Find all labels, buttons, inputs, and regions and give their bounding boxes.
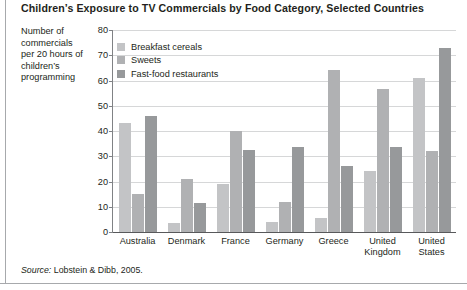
bar-group [413,30,451,232]
source-note: Source: Lobstein & Dibb, 2005. [21,265,143,275]
y-tick-label: 70 [98,50,108,60]
bar-group [217,30,255,232]
bar [132,194,144,232]
source-text: Lobstein & Dibb, 2005. [54,265,143,275]
bar [145,116,157,232]
y-tick-label: 50 [98,101,108,111]
y-tick-label: 30 [98,151,108,161]
chart-legend: Breakfast cerealsSweetsFast-food restaur… [117,40,218,81]
y-tick-mark [109,131,113,132]
y-axis-caption: Number of commercials per 20 hours of ch… [21,26,87,84]
bar [341,166,353,232]
x-axis-label: UnitedStates [400,236,464,258]
bar [194,203,206,232]
frame-left-rule [5,0,6,283]
y-tick-mark [109,232,113,233]
bar [364,171,376,232]
y-tick-mark [109,81,113,82]
y-tick-mark [109,156,113,157]
bar [243,150,255,232]
y-tick-label: 10 [98,202,108,212]
legend-label: Sweets [131,55,161,65]
bar-group [364,30,402,232]
bar [168,223,180,232]
bar [426,151,438,232]
y-tick-label: 80 [98,25,108,35]
legend-swatch [117,70,125,78]
bar [119,123,131,232]
bar [390,147,402,232]
y-tick-label: 20 [98,177,108,187]
bar [377,89,389,232]
y-tick-mark [109,106,113,107]
y-tick-mark [109,182,113,183]
bar [279,202,291,232]
legend-item: Sweets [117,54,218,68]
source-label: Source: [21,265,51,275]
y-tick-label: 40 [98,126,108,136]
legend-label: Breakfast cereals [131,42,202,52]
bar [230,131,242,232]
legend-swatch [117,43,125,51]
bar [439,48,451,232]
y-tick-label: 60 [98,76,108,86]
chart-title: Children’s Exposure to TV Commercials by… [21,2,451,15]
bar-group [315,30,353,232]
bar [266,222,278,232]
bar [328,70,340,232]
bar [413,78,425,232]
bar-group [266,30,304,232]
y-tick-mark [109,207,113,208]
y-tick-mark [109,55,113,56]
x-axis-line [112,232,456,233]
bar [217,184,229,232]
figure-container: Children’s Exposure to TV Commercials by… [0,0,467,290]
bar [315,218,327,232]
frame-bottom-rule [0,283,467,284]
legend-item: Fast-food restaurants [117,67,218,81]
y-tick-mark [109,30,113,31]
legend-label: Fast-food restaurants [131,69,218,79]
bar [292,147,304,232]
bar [181,179,193,232]
legend-swatch [117,56,125,64]
legend-item: Breakfast cereals [117,40,218,54]
